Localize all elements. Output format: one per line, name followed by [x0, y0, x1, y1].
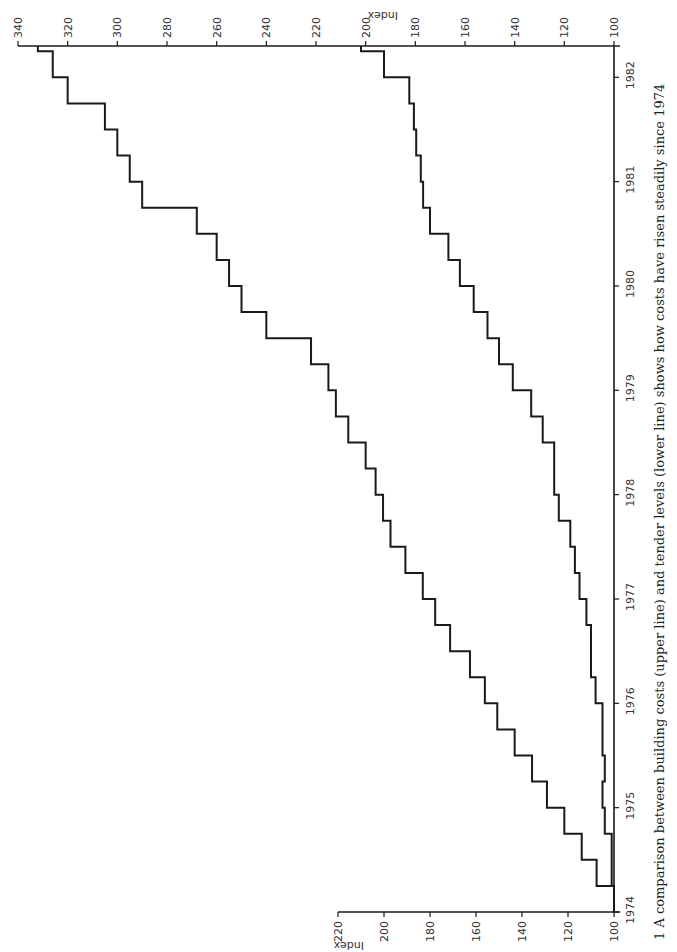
year-tick-label: 1974 — [624, 896, 637, 924]
upper-tick-label: 100 — [608, 17, 621, 38]
upper-tick-label: 320 — [62, 17, 75, 38]
lower-tick-label: 180 — [424, 921, 437, 942]
upper-tick-label: 180 — [409, 17, 422, 38]
upper-tick-label: 300 — [111, 17, 124, 38]
year-tick-label: 1981 — [624, 166, 637, 194]
upper-tick-label: 160 — [459, 17, 472, 38]
upper-tick-label: 260 — [211, 17, 224, 38]
upper-tick-label: 140 — [509, 17, 522, 38]
year-tick-label: 1975 — [624, 792, 637, 820]
lower-tick-label: 140 — [516, 921, 529, 942]
lower-tick-label: 160 — [470, 921, 483, 942]
year-tick-label: 1978 — [624, 479, 637, 507]
upper-tick-label: 240 — [260, 17, 273, 38]
year-tick-label: 1979 — [624, 374, 637, 402]
year-tick-label: 1977 — [624, 583, 637, 611]
year-tick-label: 1976 — [624, 687, 637, 715]
lower-tick-label: 220 — [332, 921, 345, 942]
chart: 100120140160180200220240260280300320340I… — [0, 0, 677, 952]
year-tick-label: 1982 — [624, 61, 637, 89]
building-costs-line — [38, 46, 614, 912]
upper-axis-title: Index — [367, 9, 398, 22]
axis-labels: 100120140160180200220240260280300320340I… — [12, 9, 637, 952]
lower-axis-title: Index — [333, 939, 364, 952]
upper-tick-label: 120 — [558, 17, 571, 38]
lower-tick-label: 120 — [562, 921, 575, 942]
upper-tick-label: 280 — [161, 17, 174, 38]
lower-tick-label: 100 — [608, 921, 621, 942]
chart-axes — [18, 41, 620, 917]
upper-tick-label: 340 — [12, 17, 25, 38]
tender-levels-line — [361, 46, 614, 912]
year-tick-label: 1980 — [624, 270, 637, 298]
lower-tick-label: 200 — [378, 921, 391, 942]
upper-tick-label: 220 — [310, 17, 323, 38]
figure-caption: 1 A comparison between building costs (u… — [652, 84, 667, 940]
